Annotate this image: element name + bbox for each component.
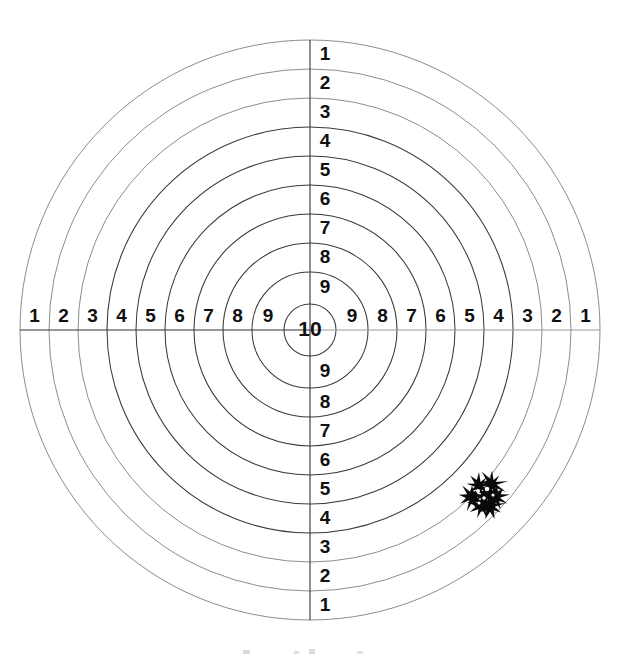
ring-score-label: 5 — [320, 478, 331, 499]
ring-score-label: 4 — [320, 130, 331, 151]
paper-fragment — [478, 502, 481, 505]
ring-score-label: 6 — [174, 305, 185, 326]
ring-score-label: 8 — [232, 305, 243, 326]
ring-score-label: 3 — [320, 536, 331, 557]
ring-score-label: 3 — [87, 305, 98, 326]
ring-score-label: 4 — [320, 507, 331, 528]
ring-score-label: 9 — [347, 305, 358, 326]
ring-score-label: 5 — [464, 305, 475, 326]
ring-score-label: 7 — [320, 217, 331, 238]
ring-score-label: 7 — [406, 305, 417, 326]
target-diagram: 12345678998765432112345678998765432110 — [0, 0, 621, 657]
ring-score-label: 2 — [551, 305, 562, 326]
ring-score-label: 1 — [29, 305, 40, 326]
ring-score-label: 1 — [320, 43, 331, 64]
ring-score-label: 3 — [522, 305, 533, 326]
ring-score-label: 8 — [377, 305, 388, 326]
ring-score-label: 9 — [320, 276, 331, 297]
pencil-mark — [309, 649, 315, 654]
pencil-mark — [294, 651, 299, 654]
target-sheet: 12345678998765432112345678998765432110 — [0, 0, 621, 657]
ring-score-label: 10 — [298, 317, 321, 340]
ring-score-label: 1 — [580, 305, 591, 326]
ring-score-label: 9 — [263, 305, 274, 326]
ring-score-label: 4 — [493, 305, 504, 326]
ring-score-label: 4 — [116, 305, 127, 326]
pencil-mark — [243, 650, 250, 654]
ring-score-label: 5 — [145, 305, 156, 326]
ring-score-label: 7 — [320, 420, 331, 441]
ring-score-label: 8 — [320, 391, 331, 412]
paper-fragment — [485, 487, 490, 492]
ring-score-label: 8 — [320, 246, 331, 267]
ring-score-label: 1 — [320, 594, 331, 615]
ring-score-label: 7 — [203, 305, 214, 326]
ring-score-label: 6 — [320, 188, 331, 209]
ring-score-label: 3 — [320, 101, 331, 122]
ring-score-label: 9 — [320, 360, 331, 381]
pencil-mark — [357, 651, 363, 654]
paper-fragment — [482, 496, 486, 500]
ring-score-label: 2 — [320, 72, 331, 93]
paper-fragment — [476, 489, 480, 493]
ring-score-label: 6 — [435, 305, 446, 326]
ring-score-label: 6 — [320, 449, 331, 470]
paper-fragment — [491, 493, 494, 496]
ring-score-label: 2 — [58, 305, 69, 326]
ring-score-label: 2 — [320, 565, 331, 586]
ring-score-label: 5 — [320, 159, 331, 180]
